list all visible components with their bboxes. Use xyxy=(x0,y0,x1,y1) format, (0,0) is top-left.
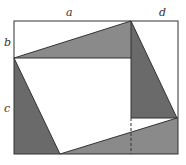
pythagorean-diagram: a d b c xyxy=(0,0,186,165)
label-d: d xyxy=(159,6,166,19)
label-c: c xyxy=(4,102,10,115)
label-b: b xyxy=(4,36,11,49)
label-a: a xyxy=(66,6,73,19)
